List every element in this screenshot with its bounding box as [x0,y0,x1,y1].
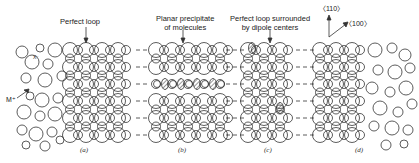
perfect-loop-arrow [84,27,88,43]
label-planar-precipitate: Planar precipitate of molecules [156,15,214,32]
label-perfect-loop-dipole: Perfect loop surrounded by dipole center… [230,15,310,32]
caption-d: (d) [355,146,363,154]
label-planar-precipitate-line2: of molecules [156,24,214,33]
caption-c: (c) [264,146,272,154]
label-perfect-loop-dipole-line2: by dipole centers [230,24,310,33]
label-cation: M⁺ [6,96,16,104]
label-direction-100: 〈100〉 [345,18,371,28]
label-perfect-loop: Perfect loop [60,18,100,27]
label-anion: X⁻ [33,54,39,60]
caption-b: (b) [178,146,186,154]
label-direction-110: 〈110〉 [319,3,344,13]
caption-a: (a) [80,146,88,154]
